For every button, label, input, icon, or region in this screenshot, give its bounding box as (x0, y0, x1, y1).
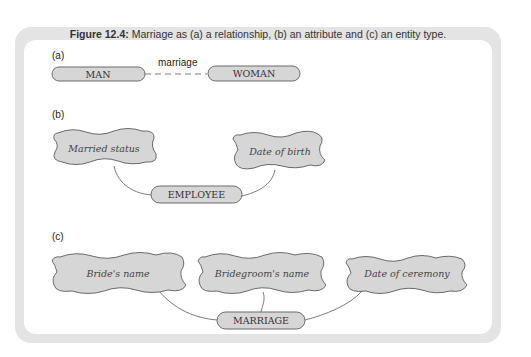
attribute-bridegrooms-name: Bridegroom's name (198, 253, 326, 294)
attribute-married-status: Married status (54, 129, 156, 165)
entity-marriage: MARRIAGE (217, 312, 305, 329)
connector-date-of-ceremony (305, 291, 362, 320)
entity-man: MAN (52, 67, 145, 81)
attribute-brides-name-label: Bride's name (85, 268, 150, 279)
attribute-brides-name: Bride's name (52, 253, 186, 294)
attribute-date-of-birth-label: Date of birth (248, 146, 311, 157)
attribute-married-status-label: Married status (67, 143, 140, 154)
entity-employee: EMPLOYEE (151, 186, 242, 203)
entity-man-label: MAN (86, 69, 111, 80)
attribute-date-of-ceremony: Date of ceremony (346, 256, 467, 294)
entity-marriage-label: MARRIAGE (233, 315, 289, 326)
connector-brides-name (158, 290, 217, 320)
entity-woman-label: WOMAN (233, 68, 275, 79)
attribute-date-of-ceremony-label: Date of ceremony (363, 268, 450, 279)
connector-bridegrooms-name (261, 292, 264, 312)
attribute-bridegrooms-name-label: Bridegroom's name (214, 268, 310, 279)
attribute-date-of-birth: Date of birth (233, 131, 325, 169)
connector-date-of-birth (242, 170, 275, 196)
connector-married-status (114, 166, 152, 195)
er-diagram: .box { fill: #d6d6d6; stroke: #6a6a6a; s… (0, 0, 531, 357)
entity-employee-label: EMPLOYEE (168, 189, 225, 200)
entity-woman: WOMAN (208, 66, 300, 81)
